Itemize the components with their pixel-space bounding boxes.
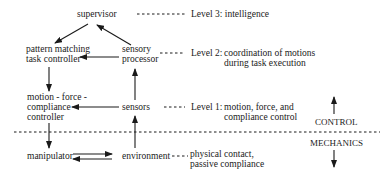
level2-title: Level 2: bbox=[191, 48, 222, 59]
node-motion-controller-line3: controller bbox=[27, 112, 64, 123]
node-motion-controller-line2: compliance bbox=[27, 102, 71, 113]
node-pattern-matching-line1: pattern matching bbox=[26, 44, 90, 55]
level1-desc-line1: motion, force, and bbox=[224, 102, 294, 113]
node-sensory-processor-line1: sensory bbox=[122, 44, 151, 55]
node-sensory-processor-line2: processor bbox=[122, 54, 158, 65]
region-mechanics-label: MECHANICS bbox=[310, 138, 363, 149]
level1-desc-line2: compliance control bbox=[224, 112, 297, 123]
region-control-label: CONTROL bbox=[315, 117, 358, 128]
level3-label: Level 3: intelligence bbox=[191, 9, 269, 20]
node-manipulator: manipulator bbox=[27, 151, 73, 162]
level2-desc-line1: coordination of motions bbox=[224, 48, 315, 59]
mechanics-note-line2: passive compliance bbox=[190, 159, 264, 170]
arrow-supervisor-to-pattern bbox=[55, 24, 88, 43]
node-supervisor: supervisor bbox=[77, 9, 117, 20]
level3-desc: intelligence bbox=[225, 9, 269, 19]
level3-title: Level 3: bbox=[191, 9, 222, 19]
node-environment: environment bbox=[122, 151, 170, 162]
node-sensors: sensors bbox=[122, 102, 150, 113]
mechanics-note-line1: physical contact, bbox=[190, 149, 254, 160]
arrow-sensory-to-supervisor bbox=[97, 25, 131, 45]
level2-desc-line2: during task execution bbox=[224, 58, 306, 69]
level1-title: Level 1: bbox=[191, 102, 222, 113]
node-motion-controller-line1: motion - force - bbox=[27, 92, 87, 103]
node-pattern-matching-line2: task controller bbox=[26, 54, 81, 65]
